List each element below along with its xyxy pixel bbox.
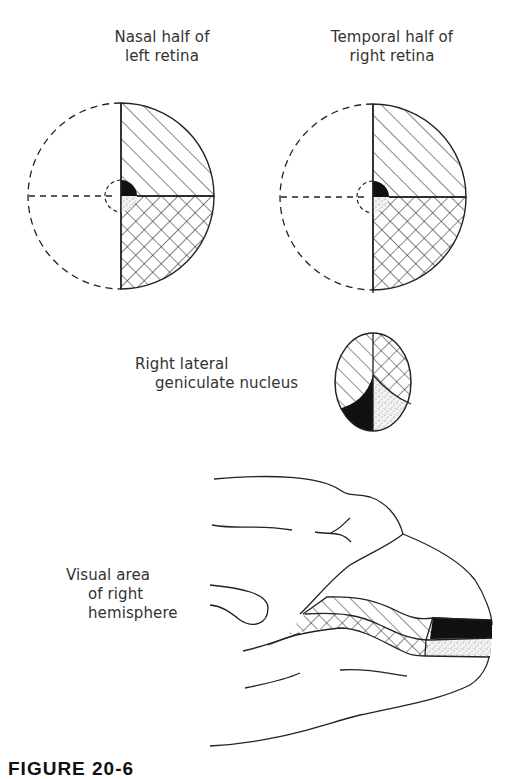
hemisphere-occipital-contour (403, 534, 492, 625)
label-line: right retina (307, 47, 477, 66)
sulcus-upper-1 (212, 525, 292, 530)
sulcus-upper-2 (315, 518, 351, 542)
label-line: Nasal half of (77, 28, 247, 47)
sulcus-lower-1 (245, 673, 300, 688)
figure-caption: FIGURE 20-6 (8, 758, 134, 779)
label-visual-area-right-hemisphere: Visual area of right hemisphere (66, 566, 178, 623)
label-line: of right (66, 585, 178, 604)
right-retina-upper-quadrant (373, 104, 466, 197)
left-retina-lower-quadrant (121, 196, 214, 289)
label-nasal-half-left-retina: Nasal half of left retina (77, 28, 247, 66)
label-temporal-half-right-retina: Temporal half of right retina (307, 28, 477, 66)
right-retina-diagram (280, 104, 466, 293)
label-line: left retina (77, 47, 247, 66)
label-line: Temporal half of (307, 28, 477, 47)
hemisphere-top-contour (214, 477, 403, 534)
lgn-diagram (330, 333, 412, 440)
left-retina-upper-quadrant (121, 103, 214, 196)
left-retina-diagram (28, 103, 214, 289)
band-stippled-macular (425, 638, 492, 656)
label-line: Visual area (66, 566, 178, 585)
label-line: hemisphere (66, 604, 178, 623)
label-right-lateral-geniculate-nucleus: Right lateral geniculate nucleus (135, 355, 298, 393)
temporal-lobe-loop (210, 585, 268, 624)
calcarine-lower-lip (243, 633, 300, 651)
sulcus-lower-2 (340, 670, 407, 676)
label-line: Right lateral (135, 355, 298, 374)
calcarine-visual-band (268, 597, 492, 657)
right-retina-lower-quadrant (373, 197, 466, 290)
label-line: geniculate nucleus (135, 374, 298, 393)
